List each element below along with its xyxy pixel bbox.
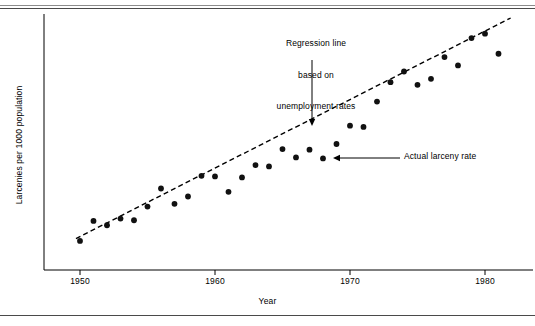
y-axis-label: Larcenies per 1000 population	[14, 45, 24, 245]
annotation-regression-line3: unemployment rates	[252, 101, 380, 112]
x-axis-label: Year	[0, 296, 535, 306]
x-tick-label: 1950	[60, 276, 100, 286]
figure-container: Regression line based on unemployment ra…	[0, 0, 535, 326]
x-tick-label: 1970	[330, 276, 370, 286]
annotation-regression-line1: Regression line	[252, 38, 380, 49]
annotation-actual-larceny-rate: Actual larceny rate	[404, 151, 476, 162]
annotation-regression-line2: based on	[252, 70, 380, 81]
x-tick-label: 1960	[195, 276, 235, 286]
x-tick-label: 1980	[465, 276, 505, 286]
x-tick-marks	[80, 270, 485, 275]
annotation-regression-line: Regression line based on unemployment ra…	[252, 17, 380, 133]
